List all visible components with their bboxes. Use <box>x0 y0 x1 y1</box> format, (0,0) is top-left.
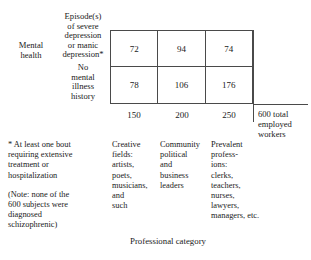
row-header-no-illness: No mental illness history <box>55 63 111 101</box>
row-header-depression-line-2: of severe <box>67 21 98 31</box>
row-header-depression-line-3: depression <box>65 30 102 40</box>
row-header-depression-line-4: or manic <box>68 40 98 50</box>
category-prevalent-line-4: clerks, <box>211 171 273 181</box>
row-header-depression-line-5: depression* <box>62 49 103 59</box>
column-total-community: 200 <box>158 110 206 120</box>
grand-total-line-2: employed <box>258 119 292 129</box>
y-axis-group-label-line-1: Mental <box>19 40 43 50</box>
category-description-community: Community political and business leaders <box>160 140 212 191</box>
table-cell-noillness-community: 106 <box>158 67 205 103</box>
table-cell-noillness-prevalent: 176 <box>206 67 253 103</box>
category-prevalent-line-8: managers, etc. <box>211 211 273 221</box>
category-creative-line-5: musicians, <box>112 181 160 191</box>
row-header-depression: Episode(s) of severe depression or manic… <box>55 12 111 60</box>
category-description-prevalent: Prevalent profess- ions: clerks, teacher… <box>211 140 273 222</box>
category-community-line-5: leaders <box>160 181 212 191</box>
row-header-no-illness-line-2: mental <box>71 72 94 82</box>
category-prevalent-line-7: lawyers, <box>211 201 273 211</box>
table-cell-depression-prevalent: 74 <box>206 31 253 66</box>
footnote-line-4: hospitalization <box>8 171 108 181</box>
grand-total-line-1: 600 total <box>258 109 288 119</box>
grand-total-line-3: workers <box>258 129 286 139</box>
category-creative-line-3: artists, <box>112 160 160 170</box>
table-row: 78 106 176 <box>111 67 253 103</box>
footnote-line-5: (Note: none of the <box>8 190 108 200</box>
category-prevalent-line-2: profess- <box>211 150 273 160</box>
category-community-line-3: and <box>160 160 212 170</box>
category-community-line-4: business <box>160 171 212 181</box>
category-prevalent-line-6: nurses, <box>211 191 273 201</box>
table-right-rule <box>253 30 254 122</box>
footnote-line-6: 600 subjects were <box>8 200 108 210</box>
category-prevalent-line-3: ions: <box>211 160 273 170</box>
table-bottom-rule-extension <box>253 104 308 105</box>
row-header-no-illness-line-3: illness <box>72 81 94 91</box>
table-cell-depression-creative: 72 <box>111 31 158 66</box>
footnote-line-3: treatment or <box>8 160 108 170</box>
category-description-creative: Creative fields: artists, poets, musicia… <box>112 140 160 211</box>
footnote-line-1: * At least one bout <box>8 140 108 150</box>
row-header-depression-line-1: Episode(s) <box>65 11 102 21</box>
category-creative-line-6: and <box>112 191 160 201</box>
table-row: 72 94 74 <box>111 31 253 67</box>
footnote-line-7: diagnosed <box>8 210 108 220</box>
contingency-table: 72 94 74 78 106 176 <box>110 30 253 104</box>
footnote-line-2: requiring extensive <box>8 150 108 160</box>
category-creative-line-4: poets, <box>112 171 160 181</box>
footnote-line-8: schizophrenic) <box>8 220 108 230</box>
table-cell-noillness-creative: 78 <box>111 67 158 103</box>
footnote-block: * At least one bout requiring extensive … <box>8 140 108 231</box>
grand-total-label: 600 total employed workers <box>258 110 310 139</box>
table-cell-depression-community: 94 <box>158 31 205 66</box>
column-total-creative: 150 <box>110 110 158 120</box>
x-axis-title: Professional category <box>108 236 228 246</box>
y-axis-group-label: Mental health <box>4 41 58 60</box>
column-total-prevalent: 250 <box>205 110 253 120</box>
row-header-no-illness-line-1: No <box>78 62 89 72</box>
category-community-line-2: political <box>160 150 212 160</box>
category-community-line-1: Community <box>160 140 212 150</box>
category-creative-line-2: fields: <box>112 150 160 160</box>
y-axis-group-label-line-2: health <box>21 50 42 60</box>
category-creative-line-7: such <box>112 201 160 211</box>
category-prevalent-line-5: teachers, <box>211 181 273 191</box>
row-header-no-illness-line-4: history <box>71 91 95 101</box>
category-creative-line-1: Creative <box>112 140 160 150</box>
category-prevalent-line-1: Prevalent <box>211 140 273 150</box>
